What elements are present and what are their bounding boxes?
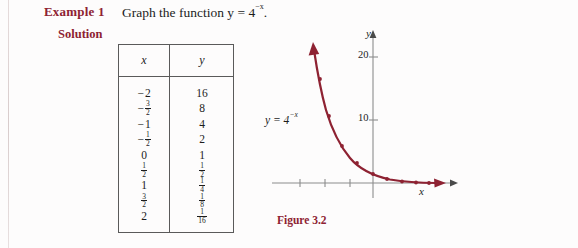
table-row: −2 [119,86,169,101]
fraction: 32 [141,193,147,209]
textbook-page: Example 1 Graph the function y = 4−x. So… [0,0,578,248]
table-row: 2 [119,209,169,224]
fraction: 116 [197,208,207,224]
table-row: 16 [170,86,234,101]
curve-start-arrowhead [309,42,320,56]
table-header-x: x [119,45,169,76]
x-axis-arrowhead [450,180,458,187]
table-row: 12 [119,163,169,178]
curve-equation-label: y = 4−x [265,112,298,126]
data-point [355,161,359,165]
table-row: 2 [170,132,234,147]
example-statement-period: . [264,5,267,20]
data-point [371,172,375,176]
data-point [385,177,389,181]
x-axis-label: x [419,185,424,197]
data-point [340,144,344,148]
table-column-x: −2 −32 −1 −12 0 12 1 32 2 [119,77,169,233]
data-point [427,181,431,185]
table-row: 8 [170,101,234,116]
curve-equation-base: y = 4 [265,114,289,126]
data-point [327,114,331,118]
y-tick-label-20: 20 [358,49,369,60]
curve-path [314,50,436,183]
table-row: −1 [119,117,169,132]
fraction: 32 [145,100,151,116]
table-row: −32 [119,101,169,116]
page-gutter-line [8,0,9,248]
example-statement-exponent: −x [255,2,264,11]
example-label: Example 1 [44,4,105,20]
example-statement-base: Graph the function y = 4 [122,5,255,20]
figure-caption: Figure 3.2 [277,214,327,226]
table-row: 4 [170,117,234,132]
y-axis-label: y [366,27,371,39]
table-row: −12 [119,132,169,147]
data-point [318,77,322,81]
example-statement: Graph the function y = 4−x. [122,4,267,21]
solution-label: Solution [58,27,102,42]
table-header-y: y [170,45,234,76]
fraction: 12 [145,131,151,147]
data-point [400,180,404,184]
table-row: 32 [119,194,169,209]
curve-end-arrowhead [434,179,446,188]
table-row: 116 [170,209,234,224]
y-tick-label-10: 10 [358,112,369,123]
table-column-y: 16 8 4 2 1 12 14 18 116 [170,77,234,233]
data-point [414,181,418,185]
fraction: 12 [141,162,147,178]
curve-equation-exponent: −x [289,110,297,119]
value-table: x y −2 −32 −1 −12 0 12 1 32 2 16 8 4 2 1… [118,44,234,233]
